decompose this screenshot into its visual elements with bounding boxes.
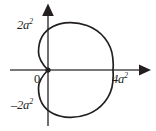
origin-label: 0 bbox=[34, 73, 40, 86]
x-axis-right-label-exponent: 2 bbox=[124, 71, 128, 80]
y-axis-arrow-icon bbox=[42, 4, 54, 17]
y-axis-upper-label-exponent: 2 bbox=[29, 17, 33, 26]
x-axis-arrow-icon bbox=[139, 65, 151, 76]
y-axis-lower-label-base: –2a bbox=[11, 98, 29, 112]
y-axis-lower-label-exponent: 2 bbox=[29, 97, 33, 106]
origin-point-marker bbox=[45, 67, 50, 72]
y-axis-upper-label: 2a2 bbox=[17, 19, 33, 32]
y-axis-lower-label: –2a2 bbox=[11, 99, 33, 112]
cardioid-figure: 2a2 –2a2 4a2 0 bbox=[0, 0, 156, 131]
x-axis-right-label: 4a2 bbox=[112, 73, 128, 86]
x-axis-right-label-base: 4a bbox=[112, 72, 124, 86]
y-axis-upper-label-base: 2a bbox=[17, 18, 29, 32]
